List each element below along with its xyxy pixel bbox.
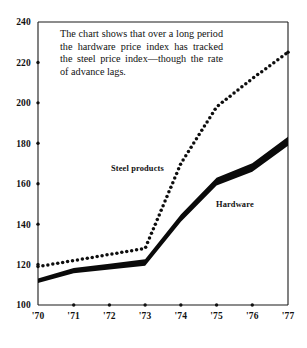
steel-series-dot xyxy=(36,265,40,269)
steel-series-dot xyxy=(276,58,280,62)
steel-series-dot xyxy=(236,88,240,92)
steel-series-dot xyxy=(184,154,188,158)
steel-series-dot xyxy=(240,85,244,89)
steel-series-dot xyxy=(125,250,129,254)
steel-series-dot xyxy=(208,116,212,120)
y-tick-label: 200 xyxy=(16,98,31,108)
steel-series-dot xyxy=(187,150,191,154)
steel-series-dot xyxy=(105,253,109,257)
steel-series-dot xyxy=(140,247,144,251)
steel-series-dot xyxy=(71,259,75,263)
steel-series-dot xyxy=(120,251,124,255)
chart-figure: 100120140160180200220240 '70'71'72'73'74… xyxy=(0,0,307,348)
chart-annotation-text: The chart shows that over a long period … xyxy=(60,28,223,78)
steel-series-dot xyxy=(252,76,256,80)
steel-series-dot xyxy=(173,176,177,180)
steel-series-dot xyxy=(165,195,169,199)
steel-series-dot xyxy=(203,124,207,128)
x-tick-label: '70 xyxy=(32,311,45,321)
steel-series-dot xyxy=(197,133,201,137)
steel-series-dot xyxy=(181,158,185,162)
steel-series-dot xyxy=(228,94,232,98)
steel-series-dot xyxy=(95,255,99,259)
series-hardware-band xyxy=(38,137,288,283)
hardware-label: Hardware xyxy=(216,200,254,209)
x-tick-label: '71 xyxy=(67,311,80,321)
steel-series-dot xyxy=(169,186,173,190)
steel-series-dot xyxy=(51,262,55,266)
x-tick-label: '76 xyxy=(246,311,259,321)
steel-series-dot xyxy=(280,55,284,59)
x-tick-label: '75 xyxy=(210,311,223,321)
steel-series-dot xyxy=(130,249,134,253)
y-tick-label: 140 xyxy=(16,220,31,230)
steel-series-dot xyxy=(157,213,161,217)
y-tick-label: 120 xyxy=(16,260,31,270)
steel-series-dot xyxy=(213,107,217,111)
steel-series-dot xyxy=(86,256,90,260)
y-tick-label: 180 xyxy=(16,139,31,149)
hardware-series-path xyxy=(38,137,288,283)
y-tick-label: 100 xyxy=(16,300,31,310)
steel-series-dot xyxy=(144,245,148,249)
x-tick-label: '77 xyxy=(282,311,295,321)
steel-series-dot xyxy=(100,254,104,258)
steel-series-dot xyxy=(217,104,221,108)
steel-series-dot xyxy=(171,181,175,185)
x-axis-tick-labels: '70'71'72'73'74'75'76'77 xyxy=(32,311,295,321)
steel-series-dot xyxy=(256,73,260,77)
steel-series-dot xyxy=(286,51,290,55)
steel-series-dot xyxy=(260,70,264,74)
x-tick-label: '74 xyxy=(174,311,187,321)
steel-series-dot xyxy=(81,257,85,261)
steel-series-dot xyxy=(76,258,80,262)
steel-series-dot xyxy=(200,129,204,133)
steel-series-dot xyxy=(195,137,199,141)
steel-series-dot xyxy=(264,67,268,71)
steel-series-dot xyxy=(211,112,215,116)
steel-series-dot xyxy=(110,252,114,256)
y-tick-label: 160 xyxy=(16,179,31,189)
steel-series-dot xyxy=(61,261,65,265)
steel-series-dot xyxy=(205,120,209,124)
steel-series-dot xyxy=(150,232,154,236)
steel-series-dot xyxy=(146,241,150,245)
steel-series-dot xyxy=(221,101,225,105)
steel-series-dot xyxy=(156,218,160,222)
steel-series-dot xyxy=(272,61,276,64)
y-tick-label: 240 xyxy=(16,17,31,27)
steel-series-dot xyxy=(115,251,119,255)
steel-series-dot xyxy=(224,98,228,102)
steel-series-dot xyxy=(167,190,171,194)
steel-series-dot xyxy=(148,236,152,240)
steel-products-label: Steel products xyxy=(111,164,164,173)
series-steel-products-dotted xyxy=(36,51,290,269)
steel-series-dot xyxy=(244,82,248,86)
steel-series-dot xyxy=(90,256,94,260)
x-tick-label: '73 xyxy=(139,311,152,321)
steel-series-dot xyxy=(154,222,158,226)
steel-series-dot xyxy=(135,248,139,252)
steel-series-dot xyxy=(66,260,70,264)
y-axis-tick-labels: 100120140160180200220240 xyxy=(16,17,31,310)
steel-series-dot xyxy=(192,141,196,145)
steel-series-dot xyxy=(41,264,45,268)
steel-series-dot xyxy=(189,146,193,150)
steel-series-dot xyxy=(268,64,272,68)
steel-series-dot xyxy=(232,91,236,95)
steel-series-dot xyxy=(46,263,50,267)
steel-series-dot xyxy=(159,209,163,213)
steel-series-dot xyxy=(161,204,165,208)
steel-series-dot xyxy=(175,172,179,176)
steel-series-dot xyxy=(163,199,167,203)
steel-series-dot xyxy=(179,162,183,166)
x-tick-label: '72 xyxy=(103,311,116,321)
y-tick-label: 220 xyxy=(16,58,31,68)
steel-series-dot xyxy=(56,261,60,265)
steel-series-dot xyxy=(248,79,252,83)
steel-series-dot xyxy=(177,167,181,171)
steel-series-dot xyxy=(152,227,156,231)
